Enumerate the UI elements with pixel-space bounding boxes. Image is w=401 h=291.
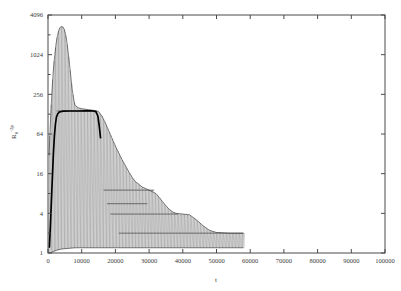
oscillation-trace bbox=[63, 30, 64, 249]
oscillation-trace bbox=[57, 31, 58, 250]
oscillation-trace bbox=[73, 103, 74, 248]
oscillation-trace bbox=[72, 95, 73, 248]
x-tick-label: 100000 bbox=[375, 257, 395, 264]
oscillation-trace bbox=[220, 233, 221, 248]
x-tick-label: 70000 bbox=[276, 257, 292, 264]
oscillation-trace bbox=[191, 216, 192, 247]
x-tick-label: 40000 bbox=[175, 257, 191, 264]
figure-container: 0100002000030000400005000060000700008000… bbox=[0, 0, 401, 291]
oscillation-trace bbox=[214, 232, 215, 248]
oscillation-trace bbox=[76, 107, 77, 248]
oscillation-trace bbox=[240, 233, 241, 248]
oscillation-trace bbox=[183, 214, 184, 248]
oscillation-trace bbox=[180, 214, 181, 248]
oscillation-trace bbox=[146, 189, 147, 248]
oscillation-trace bbox=[125, 168, 126, 248]
oscillation-trace bbox=[177, 214, 178, 248]
oscillation-trace bbox=[167, 209, 168, 248]
oscillation-trace bbox=[102, 119, 103, 248]
y-tick-label: 1 bbox=[40, 249, 43, 256]
oscillation-trace bbox=[237, 233, 238, 248]
oscillation-trace bbox=[115, 148, 116, 247]
oscillation-trace bbox=[82, 109, 83, 248]
oscillation-trace bbox=[162, 202, 163, 248]
oscillation-trace bbox=[111, 139, 112, 248]
oscillation-trace bbox=[233, 233, 234, 248]
oscillation-trace bbox=[147, 190, 148, 248]
oscillation-trace bbox=[176, 213, 177, 247]
oscillation-trace bbox=[160, 200, 161, 248]
oscillation-trace bbox=[88, 110, 89, 248]
oscillation-trace bbox=[60, 26, 61, 249]
x-tick-label: 10000 bbox=[74, 257, 90, 264]
oscillation-trace bbox=[64, 36, 65, 249]
oscillation-trace bbox=[218, 233, 219, 248]
oscillation-trace bbox=[98, 112, 99, 247]
oscillation-trace bbox=[118, 154, 119, 248]
oscillation-trace bbox=[109, 135, 110, 247]
oscillation-trace bbox=[150, 190, 151, 248]
oscillation-trace bbox=[67, 57, 68, 249]
oscillation-trace bbox=[198, 222, 199, 248]
chart-svg: 0100002000030000400005000060000700008000… bbox=[0, 0, 401, 291]
oscillation-trace bbox=[199, 223, 200, 247]
axes-frame bbox=[48, 15, 385, 253]
oscillation-trace bbox=[217, 233, 218, 248]
oscillation-trace bbox=[195, 220, 196, 248]
oscillation-trace bbox=[204, 227, 205, 248]
oscillation-trace bbox=[215, 232, 216, 247]
oscillation-trace bbox=[141, 187, 142, 248]
oscillation-trace bbox=[225, 233, 226, 248]
oscillation-trace bbox=[170, 211, 171, 248]
oscillation-trace bbox=[175, 213, 176, 248]
oscillation-trace bbox=[241, 233, 242, 248]
oscillation-trace bbox=[238, 233, 239, 248]
oscillation-trace bbox=[212, 232, 213, 248]
oscillation-trace bbox=[222, 233, 223, 248]
oscillation-trace bbox=[54, 48, 55, 251]
oscillation-trace bbox=[91, 110, 92, 248]
oscillation-trace bbox=[105, 125, 106, 248]
oscillation-trace bbox=[205, 228, 206, 248]
oscillation-trace bbox=[124, 165, 125, 247]
oscillation-trace bbox=[114, 145, 115, 248]
oscillation-trace bbox=[231, 233, 232, 248]
oscillation-trace bbox=[151, 190, 152, 248]
oscillation-trace bbox=[62, 27, 63, 249]
oscillation-trace bbox=[80, 109, 81, 248]
oscillation-trace bbox=[148, 190, 149, 248]
oscillation-trace bbox=[189, 215, 190, 247]
oscillation-trace bbox=[173, 213, 174, 248]
oscillation-trace bbox=[59, 28, 60, 250]
oscillation-trace bbox=[211, 231, 212, 248]
oscillation-trace bbox=[92, 110, 93, 247]
oscillation-trace bbox=[137, 184, 138, 248]
oscillation-trace bbox=[179, 214, 180, 248]
oscillation-trace bbox=[85, 109, 86, 247]
x-tick-label: 90000 bbox=[343, 257, 359, 264]
oscillation-trace bbox=[234, 233, 235, 248]
oscillation-trace bbox=[83, 109, 84, 248]
oscillation-trace bbox=[202, 226, 203, 248]
oscillation-trace bbox=[166, 207, 167, 248]
oscillation-trace bbox=[163, 204, 164, 248]
oscillation-trace bbox=[186, 215, 187, 248]
oscillation-trace bbox=[206, 229, 207, 248]
oscillation-trace bbox=[69, 70, 70, 248]
x-tick-label: 0 bbox=[46, 257, 49, 264]
oscillation-trace bbox=[130, 175, 131, 247]
oscillation-trace bbox=[221, 233, 222, 248]
oscillation-trace bbox=[188, 215, 189, 248]
oscillation-trace bbox=[93, 111, 94, 248]
oscillation-trace bbox=[75, 106, 76, 248]
y-tick-label: 64 bbox=[37, 130, 44, 137]
oscillation-trace bbox=[117, 151, 118, 248]
y-tick-label: 16 bbox=[37, 170, 44, 177]
oscillation-trace bbox=[157, 197, 158, 248]
oscillation-trace bbox=[144, 188, 145, 247]
oscillation-trace bbox=[104, 122, 105, 248]
x-tick-label: 80000 bbox=[309, 257, 325, 264]
oscillation-trace bbox=[95, 111, 96, 248]
x-tick-label: 50000 bbox=[208, 257, 224, 264]
oscillation-trace bbox=[140, 186, 141, 248]
